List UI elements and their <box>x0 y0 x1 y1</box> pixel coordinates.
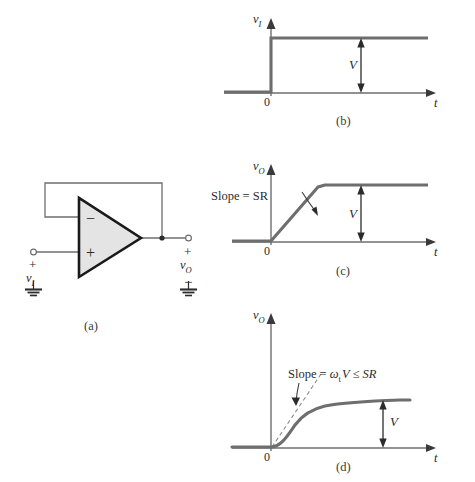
panel-d-amplitude-arrow <box>379 400 386 448</box>
output-minus-sign: − <box>184 275 192 290</box>
input-voltage-label: vI <box>26 272 34 287</box>
panel-d-y-axis-arrow <box>267 313 276 324</box>
panel-d-slope-omega-subscript: t <box>339 374 341 384</box>
panel-b-x-axis-label: t <box>434 97 437 110</box>
panel-c-y-axis-label: vO <box>253 160 265 175</box>
figure-graphics <box>0 0 475 482</box>
panel-d-origin-label: 0 <box>264 451 270 463</box>
output-voltage-label: vO <box>180 259 192 274</box>
panel-c-slope-annotation: Slope = SR <box>211 190 268 203</box>
panel-b-plot <box>224 18 436 97</box>
panel-d-slope-annotation: Slope = ωtV ≤ SR <box>288 368 376 383</box>
panel-b-label: (b) <box>336 115 351 128</box>
output-terminal-circle <box>186 235 192 241</box>
panel-c-amplitude-arrow <box>357 185 364 242</box>
inverting-input-sign: − <box>86 211 95 227</box>
output-voltage-subscript: O <box>186 265 192 275</box>
panel-d-slope-prefix: Slope = <box>288 367 330 381</box>
panel-a-label: (a) <box>84 320 98 333</box>
input-terminal-circle <box>31 249 37 255</box>
slew-rate-figure: + vI − + vO − − + (a) vI t 0 V (b) vO t … <box>0 0 475 482</box>
panel-b-y-axis-subscript: I <box>259 19 262 29</box>
panel-d-x-axis-label: t <box>434 452 437 465</box>
panel-b-step-trace <box>224 38 428 92</box>
input-minus-sign: − <box>29 288 37 303</box>
panel-c-label: (c) <box>336 265 350 278</box>
panel-d-slope-suffix: V ≤ SR <box>342 367 376 381</box>
panel-b-amplitude-label: V <box>349 58 357 71</box>
panel-b-y-axis-arrow <box>267 18 276 29</box>
output-plus-sign: + <box>184 245 191 258</box>
noninverting-input-sign: + <box>86 245 95 261</box>
panel-a-circuit <box>25 183 197 296</box>
panel-c-origin-label: 0 <box>264 245 270 257</box>
panel-b-amplitude-arrow <box>357 38 364 93</box>
output-node-dot <box>159 235 164 240</box>
panel-c-y-axis-subscript: O <box>259 166 265 176</box>
panel-c-x-axis-label: t <box>434 246 437 259</box>
panel-c-plot <box>232 164 436 246</box>
panel-d-slope-pointer-head <box>292 398 301 407</box>
panel-d-y-axis-subscript: O <box>259 315 265 325</box>
panel-d-slope-omega: ω <box>330 367 339 381</box>
panel-c-amplitude-label: V <box>349 207 357 220</box>
panel-d-label: (d) <box>336 461 351 474</box>
panel-d-amplitude-label: V <box>390 415 398 428</box>
panel-b-y-axis-label: vI <box>253 13 261 28</box>
panel-d-y-axis-label: vO <box>253 309 265 324</box>
input-voltage-subscript: I <box>32 278 35 288</box>
panel-c-y-axis-arrow <box>267 164 276 175</box>
panel-b-origin-label: 0 <box>264 96 270 108</box>
input-plus-sign: + <box>29 258 36 271</box>
